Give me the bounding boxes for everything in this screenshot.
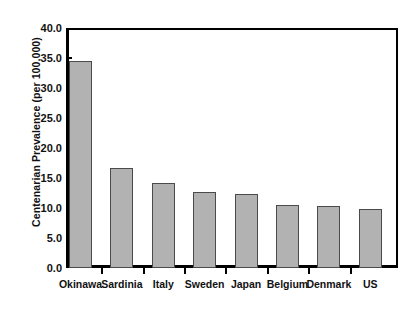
bar xyxy=(69,61,92,268)
x-axis-tick-mark xyxy=(184,268,186,274)
x-axis-tick-mark xyxy=(267,268,269,274)
y-axis-tick-label: 25.0 xyxy=(14,112,62,124)
y-axis-tick-label: 5.0 xyxy=(14,232,62,244)
x-axis-category-label: US xyxy=(330,278,410,290)
x-axis-tick-mark xyxy=(225,268,227,274)
x-axis-tick-mark xyxy=(308,268,310,274)
bar xyxy=(193,192,216,268)
x-axis-tick-mark xyxy=(101,268,103,274)
bars-container xyxy=(69,28,398,268)
x-axis-tick-mark xyxy=(350,268,352,274)
bar xyxy=(276,205,299,268)
bar xyxy=(235,194,258,268)
bar xyxy=(152,183,175,268)
y-axis-tick-label: 40.0 xyxy=(14,22,62,34)
y-axis-tick-label: 10.0 xyxy=(14,202,62,214)
y-axis-tick-label: 15.0 xyxy=(14,172,62,184)
y-axis-tick-label: 30.0 xyxy=(14,82,62,94)
x-axis-tick-mark xyxy=(143,268,145,274)
bar-chart: Centenarian Prevalence (per 100,000) 40.… xyxy=(0,0,414,309)
bar xyxy=(359,209,382,268)
y-axis-tick-label: 0.0 xyxy=(14,262,62,274)
bar xyxy=(317,206,340,268)
y-axis-tick-label: 35.0 xyxy=(14,52,62,64)
y-axis-tick-label: 20.0 xyxy=(14,142,62,154)
bar xyxy=(110,168,133,268)
